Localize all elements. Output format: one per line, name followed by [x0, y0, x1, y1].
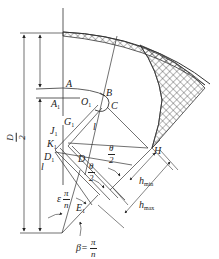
- dim-h-max: hmax: [139, 200, 154, 211]
- label-H: H: [154, 146, 161, 156]
- label-A1: A1: [51, 99, 60, 110]
- dim-h-min: hmin: [139, 176, 153, 187]
- dim-theta-over-2-b: θ2: [88, 162, 95, 183]
- dim-epsilon-prefix: ε: [57, 194, 61, 204]
- line-C-H: [107, 107, 148, 148]
- label-l-left: l: [41, 162, 44, 172]
- curve-A: [36, 88, 105, 96]
- cross-section-diagram: [0, 0, 219, 259]
- dim-epsilon-pi-n: πn: [63, 189, 70, 210]
- label-A: A: [66, 79, 72, 89]
- label-K1: K1: [47, 139, 57, 150]
- line-hmin-ext2: [113, 188, 128, 205]
- label-l-inner: l: [93, 122, 96, 132]
- angle-arc-theta: [108, 168, 120, 176]
- line-hmax-ext2: [98, 205, 124, 228]
- dim-beta-pi-n: πn: [90, 238, 97, 259]
- label-D1: D1: [44, 152, 54, 163]
- dim-beta-prefix: β=: [76, 243, 88, 253]
- label-O1: O1: [81, 97, 91, 108]
- angle-arc-beta-right: [80, 222, 81, 236]
- line-hmax-ext: [160, 150, 178, 170]
- label-D: D: [78, 154, 85, 164]
- label-G1: G1: [64, 117, 74, 128]
- label-B: B: [106, 88, 112, 98]
- label-J1: J1: [50, 126, 57, 137]
- label-E1: E1: [76, 203, 85, 214]
- dim-theta-over-2-a: θ2: [108, 144, 115, 165]
- angle-arc-beta-left: [48, 214, 62, 218]
- label-C: C: [111, 101, 118, 111]
- dim-D-over-2: D2: [6, 133, 27, 142]
